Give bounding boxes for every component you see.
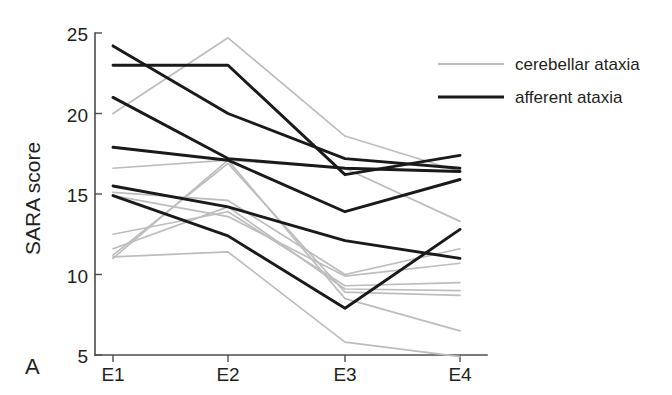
legend-label-afferent: afferent ataxia	[515, 88, 623, 107]
data-line-afferent	[113, 196, 460, 309]
legend-entry-afferent: afferent ataxia	[438, 88, 623, 107]
axes	[95, 33, 487, 362]
data-line-afferent	[113, 65, 460, 174]
x-axis-tick-labels: E1 E2 E3 E4	[101, 364, 472, 385]
y-axis-tick-labels: 25 20 15 10 5	[67, 24, 88, 367]
y-tick-label-10: 10	[67, 266, 88, 287]
y-tick-label-20: 20	[67, 105, 88, 126]
data-line-cerebellar	[113, 207, 460, 291]
y-tick-label-5: 5	[77, 346, 88, 367]
data-line-afferent	[113, 97, 460, 171]
data-series-layer	[113, 38, 460, 357]
data-line-cerebellar	[113, 252, 460, 357]
data-line-cerebellar	[113, 38, 460, 172]
x-tick-label-e4: E4	[448, 364, 472, 385]
legend-entry-cerebellar: cerebellar ataxia	[438, 55, 640, 74]
y-tick-label-25: 25	[67, 24, 88, 45]
panel-label: A	[25, 354, 40, 379]
y-axis-ticks	[95, 33, 102, 355]
legend-label-cerebellar: cerebellar ataxia	[515, 55, 640, 74]
legend: cerebellar ataxia afferent ataxia	[438, 55, 640, 107]
y-tick-label-15: 15	[67, 185, 88, 206]
data-line-afferent	[113, 147, 460, 211]
x-axis-ticks	[113, 355, 460, 362]
x-tick-label-e2: E2	[216, 364, 239, 385]
figure-panel-a: 25 20 15 10 5 E1 E2 E3 E4 SARA score A c…	[0, 0, 672, 395]
x-tick-label-e3: E3	[333, 364, 356, 385]
sara-score-line-chart: 25 20 15 10 5 E1 E2 E3 E4 SARA score A c…	[0, 0, 672, 395]
y-axis-title: SARA score	[21, 142, 44, 255]
x-tick-label-e1: E1	[101, 364, 124, 385]
